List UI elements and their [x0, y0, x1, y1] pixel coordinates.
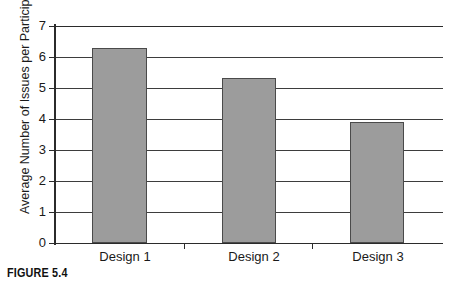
x-label-design-3: Design 3 — [318, 249, 438, 265]
y-tick-label-6: 6 — [30, 50, 46, 63]
y-tick-mark-6 — [49, 57, 56, 58]
bar-design-3 — [350, 122, 404, 243]
y-tick-mark-7 — [49, 26, 56, 27]
y-tick-label-5: 5 — [30, 81, 46, 94]
bar-design-1 — [92, 48, 147, 243]
figure-caption: FIGURE 5.4 — [7, 266, 68, 280]
y-axis-title: Average Number of Issues per Participant — [19, 0, 32, 214]
x-label-design-2: Design 2 — [194, 249, 314, 265]
y-tick-mark-3 — [49, 150, 56, 151]
gridline-7 — [55, 26, 443, 27]
y-tick-label-7: 7 — [30, 19, 46, 32]
y-tick-label-2: 2 — [30, 174, 46, 187]
y-tick-mark-1 — [49, 212, 56, 213]
y-tick-label-4: 4 — [30, 112, 46, 125]
bar-chart — [55, 26, 443, 243]
y-tick-mark-4 — [49, 119, 56, 120]
figure-container: 7 6 5 4 3 2 1 0 Design 1 Design 2 Design… — [0, 0, 461, 283]
y-tick-mark-5 — [49, 88, 56, 89]
x-axis-line — [55, 243, 443, 244]
bar-design-2 — [222, 78, 276, 243]
y-tick-mark-2 — [49, 181, 56, 182]
y-tick-label-1: 1 — [30, 205, 46, 218]
y-tick-label-3: 3 — [30, 143, 46, 156]
y-tick-mark-0 — [49, 243, 56, 244]
y-tick-label-0: 0 — [30, 236, 46, 249]
x-label-design-1: Design 1 — [65, 249, 185, 265]
